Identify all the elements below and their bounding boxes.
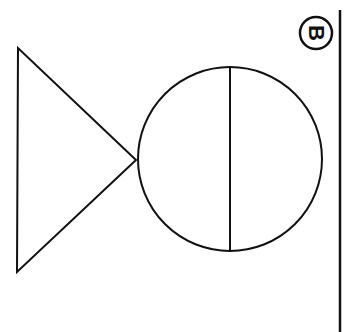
label-badge: B [300,17,332,49]
diagram-canvas: B [0,0,352,332]
label-badge-letter: B [304,25,329,41]
triangle-shape [17,48,136,272]
